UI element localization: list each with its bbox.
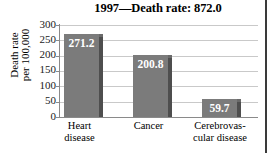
x-category-label-cancer: Cancer: [115, 120, 182, 132]
bar-cerebrovascular-disease[interactable]: 59.7: [202, 99, 237, 117]
bar-value-cancer: 200.8: [133, 58, 168, 70]
plot-area: 271.2 200.8 59.7: [60, 25, 258, 117]
bar-value-cerebrovascular-disease: 59.7: [202, 102, 237, 114]
y-tick-label-300: 300: [2, 19, 56, 30]
gridline-300: [60, 25, 258, 26]
bar-heart-disease-shadow: [99, 37, 103, 117]
bar-cerebrovascular-disease-shadow: [237, 102, 241, 117]
bar-cancer[interactable]: 200.8: [133, 55, 168, 117]
y-tick-label-50: 50: [2, 95, 56, 106]
x-category-label-heart-disease: Heart disease: [46, 120, 113, 143]
y-tick-label-250: 250: [2, 34, 56, 45]
x-category-label-cancer-line-1: Cancer: [115, 120, 182, 132]
x-category-label-heart-disease-line-1: Heart: [46, 120, 113, 132]
x-category-label-cerebrovascular-disease-line-2: cular disease: [180, 132, 260, 144]
y-tick-label-150: 150: [2, 64, 56, 75]
y-tick-label-200: 200: [2, 49, 56, 60]
bar-heart-disease[interactable]: 271.2: [64, 34, 99, 117]
death-rate-bar-chart: 1997—Death rate: 872.0 Death rate per 10…: [0, 0, 273, 153]
bar-cancer-shadow: [168, 58, 172, 117]
page-border-rule: [265, 0, 267, 153]
bar-value-heart-disease: 271.2: [64, 37, 99, 49]
x-category-label-cerebrovascular-disease-line-1: Cerebrovas-: [180, 120, 260, 132]
chart-title: 1997—Death rate: 872.0: [58, 1, 258, 16]
x-category-label-heart-disease-line-2: disease: [46, 132, 113, 144]
x-category-label-cerebrovascular-disease: Cerebrovas- cular disease: [180, 120, 260, 143]
x-axis-baseline: [59, 117, 258, 118]
y-tick-label-100: 100: [2, 80, 56, 91]
